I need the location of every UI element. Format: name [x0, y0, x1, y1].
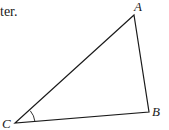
angle-c-arc — [30, 111, 35, 122]
vertex-label-c: C — [2, 116, 11, 130]
triangle-diagram: A B C — [0, 0, 169, 130]
vertex-label-b: B — [152, 104, 160, 119]
triangle-abc — [15, 15, 149, 123]
vertex-label-a: A — [133, 0, 142, 14]
